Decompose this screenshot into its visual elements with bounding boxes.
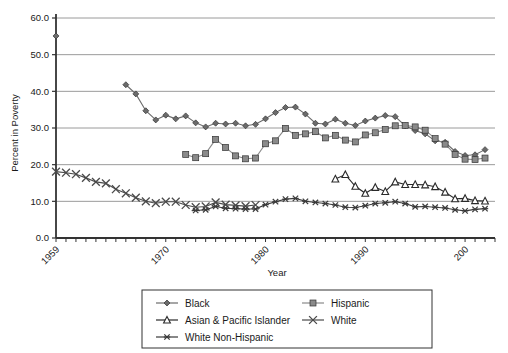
legend-label: White Non-Hispanic xyxy=(185,332,273,343)
y-axis-title: Percent in Poverty xyxy=(9,94,20,172)
legend-label: White xyxy=(331,315,357,326)
data-point-square xyxy=(352,139,358,145)
y-tick-label-1: 50.0 xyxy=(31,49,50,60)
data-point-square xyxy=(193,155,199,161)
data-point-square xyxy=(432,136,438,142)
data-point-square xyxy=(382,126,388,132)
data-point-square xyxy=(332,132,338,138)
data-point-square xyxy=(422,127,428,133)
legend-label: Asian & Pacific Islander xyxy=(185,315,291,326)
data-point-square xyxy=(462,156,468,162)
data-point-square xyxy=(203,151,209,157)
data-point-square xyxy=(402,122,408,128)
data-point-square xyxy=(263,141,269,147)
y-tick-label-3: 30.0 xyxy=(31,122,50,133)
y-tick-label-4: 20.0 xyxy=(31,159,50,170)
legend-label: Hispanic xyxy=(331,298,369,309)
data-point-square xyxy=(273,138,279,144)
data-point-square xyxy=(243,156,249,162)
data-point-square xyxy=(472,157,478,163)
data-point-square xyxy=(282,125,288,131)
data-point-square xyxy=(253,155,259,161)
data-point-square xyxy=(442,141,448,147)
data-point-square xyxy=(482,155,488,161)
chart-figure: 60.050.040.030.020.010.00.0 195919701980… xyxy=(0,0,508,353)
x-axis-title: Year xyxy=(267,267,286,278)
data-point-square xyxy=(312,129,318,135)
data-point-square xyxy=(392,123,398,129)
legend-label: Black xyxy=(185,298,210,309)
data-point-square xyxy=(183,151,189,157)
data-point-square xyxy=(310,300,316,306)
poverty-line-chart: 60.050.040.030.020.010.00.0 195919701980… xyxy=(0,0,508,353)
data-point-square xyxy=(362,132,368,138)
y-tick-label-5: 10.0 xyxy=(31,196,50,207)
y-tick-label-0: 60.0 xyxy=(31,12,50,23)
data-point-square xyxy=(213,136,219,142)
data-point-square xyxy=(223,144,229,150)
data-point-square xyxy=(322,135,328,141)
data-point-square xyxy=(292,132,298,138)
data-point-square xyxy=(342,137,348,143)
data-point-square xyxy=(372,130,378,136)
y-tick-label-6: 0.0 xyxy=(36,232,49,243)
y-tick-label-2: 40.0 xyxy=(31,86,50,97)
data-point-square xyxy=(233,153,239,159)
data-point-square xyxy=(452,151,458,157)
data-point-square xyxy=(412,124,418,130)
data-point-square xyxy=(302,131,308,137)
chart-legend: BlackHispanicAsian & Pacific IslanderWhi… xyxy=(142,290,432,348)
